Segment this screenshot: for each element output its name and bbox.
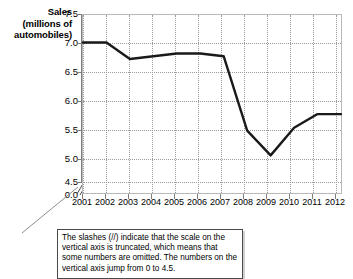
y-tick-label-7-0: 7.0 [16, 38, 78, 48]
y-tick-label-6-0: 6.0 [16, 96, 78, 106]
data-series-line [83, 15, 341, 193]
y-tick-label-6-5: 6.5 [16, 67, 78, 77]
caption-callout: The slashes (//) indicate that the scale… [57, 229, 243, 279]
y-tick-label-7-5: 7.5 [16, 9, 78, 19]
x-tick-label-2012: 2012 [320, 197, 350, 207]
y-axis-title-line-2: (millions of [0, 18, 72, 30]
caption-text: The slashes (//) indicate that the scale… [62, 233, 237, 273]
y-tick-label-5-0: 5.0 [16, 154, 78, 164]
y-tick-label-4-5: 4.5 [16, 177, 78, 187]
plot-area [82, 14, 342, 194]
y-tick-label-5-5: 5.5 [16, 125, 78, 135]
